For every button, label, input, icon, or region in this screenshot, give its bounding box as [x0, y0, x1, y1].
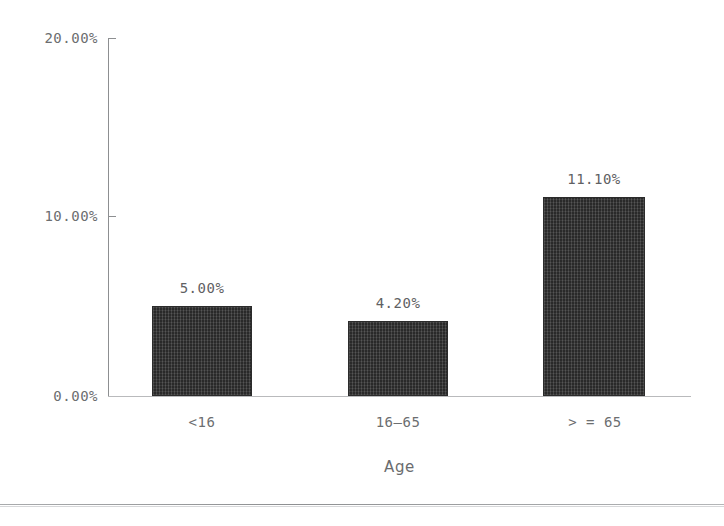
y-tick-mark-10 — [108, 216, 116, 217]
page-divider-rule-shadow — [0, 506, 724, 507]
x-axis-category-label-1: 16‒65 — [338, 414, 458, 430]
y-axis-line — [108, 38, 109, 397]
bar-series-age-16-65 — [348, 321, 448, 396]
bar-value-label-1: 4.20% — [338, 295, 458, 311]
x-axis-title: Age — [108, 458, 691, 476]
bar-chart-figure: 20.00% 10.00% 0.00% 5.00% 4.20% 11.10% <… — [0, 0, 724, 526]
bar-value-label-2: 11.10% — [534, 171, 654, 187]
x-axis-category-label-2: > = 65 — [534, 414, 656, 430]
y-tick-mark-20 — [108, 38, 116, 39]
y-axis-tick-label-0: 0.00% — [6, 388, 108, 404]
bar-series-age-over-65 — [543, 197, 645, 396]
y-axis-tick-label-20: 20.00% — [6, 30, 108, 46]
y-axis-tick-label-10: 10.00% — [6, 208, 108, 224]
bar-series-age-under-16 — [152, 306, 252, 396]
bar-value-label-0: 5.00% — [142, 280, 262, 296]
x-axis-category-label-0: <16 — [142, 414, 262, 430]
page-divider-rule — [0, 504, 724, 505]
x-axis-baseline — [108, 396, 691, 397]
